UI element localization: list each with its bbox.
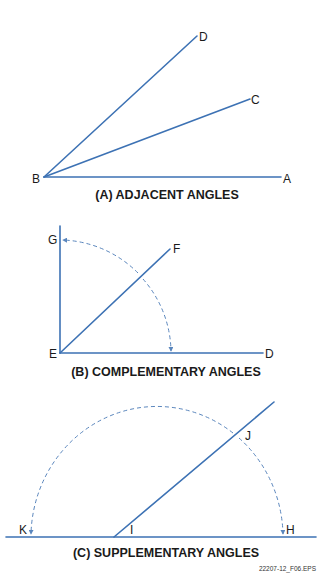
label-J: J bbox=[245, 429, 251, 443]
label-H: H bbox=[286, 523, 295, 537]
panel-adjacent-angles: B A C D (A) ADJACENT ANGLES bbox=[32, 30, 291, 202]
label-D2: D bbox=[265, 347, 274, 361]
label-B: B bbox=[32, 172, 40, 186]
arc-angle-JIK bbox=[31, 406, 233, 534]
caption-complementary: (B) COMPLEMENTARY ANGLES bbox=[71, 365, 261, 379]
ray-IJ bbox=[114, 402, 274, 537]
label-A: A bbox=[283, 172, 291, 186]
panel-complementary-angles: G F E D (B) COMPLEMENTARY ANGLES bbox=[48, 226, 274, 379]
label-C: C bbox=[251, 93, 260, 107]
file-label: 22207-12_F06.EPS bbox=[259, 565, 317, 573]
label-G: G bbox=[48, 233, 57, 247]
label-E: E bbox=[49, 347, 57, 361]
arc-angle-DEF bbox=[143, 279, 171, 351]
label-F: F bbox=[173, 242, 180, 256]
caption-adjacent: (A) ADJACENT ANGLES bbox=[95, 188, 239, 202]
ray-EF bbox=[60, 249, 170, 353]
label-D: D bbox=[199, 30, 208, 44]
label-K: K bbox=[19, 523, 27, 537]
arc-angle-FEG bbox=[63, 240, 138, 273]
caption-supplementary: (C) SUPPLEMENTARY ANGLES bbox=[73, 546, 259, 560]
ray-BD bbox=[44, 36, 197, 177]
panel-supplementary-angles: K I H J (C) SUPPLEMENTARY ANGLES bbox=[6, 402, 316, 560]
angles-diagram: B A C D (A) ADJACENT ANGLES G F E D (B) … bbox=[0, 0, 334, 580]
arc-angle-HIJ bbox=[239, 438, 283, 534]
ray-BC bbox=[44, 99, 250, 177]
label-I: I bbox=[130, 523, 133, 537]
